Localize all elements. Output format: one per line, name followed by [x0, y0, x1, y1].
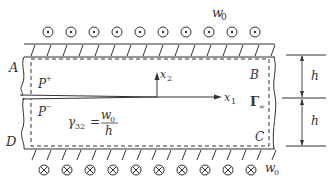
- out-of-plane-icon: [227, 27, 237, 37]
- out-of-plane-icon: [112, 27, 122, 37]
- svg-text:∞: ∞: [259, 103, 265, 111]
- out-of-plane-icon: [158, 27, 168, 37]
- lower-height-label: h: [311, 114, 319, 128]
- crack-strip-diagram: w 0: [0, 0, 333, 185]
- out-of-plane-icon: [43, 27, 53, 37]
- corner-c-label: C: [255, 130, 264, 144]
- into-plane-icon: [246, 165, 256, 175]
- svg-text:+: +: [46, 75, 52, 83]
- into-plane-icon: [85, 165, 95, 175]
- contour-label: Γ ∞: [250, 94, 265, 111]
- svg-text:0: 0: [274, 168, 279, 177]
- strip-left-edge: [21, 57, 24, 149]
- dim-arrow-down-icon: [300, 91, 304, 97]
- into-plane-icon: [223, 165, 233, 175]
- corner-b-label: B: [249, 68, 259, 82]
- x2-arrowhead-icon: [155, 72, 160, 80]
- top-displacement-label: w 0: [212, 5, 227, 22]
- svg-text:=: =: [90, 115, 100, 129]
- svg-text:0: 0: [221, 12, 227, 22]
- into-plane-icon: [200, 165, 210, 175]
- svg-text:h: h: [105, 124, 113, 138]
- svg-text:x: x: [160, 68, 167, 81]
- into-plane-icon: [177, 165, 187, 175]
- upper-height-label: h: [311, 69, 319, 83]
- corner-a-label: A: [8, 60, 18, 75]
- strip-right-edge: [273, 57, 276, 149]
- svg-text:1: 1: [231, 97, 236, 106]
- coordinate-axes: x 1 x 2: [155, 68, 237, 106]
- height-dimensions: h h: [282, 55, 326, 146]
- crack: [20, 95, 157, 99]
- bottom-boundary: [24, 149, 276, 160]
- svg-text:2: 2: [167, 74, 172, 83]
- lower-face-label: P −: [37, 103, 52, 119]
- top-boundary: [24, 44, 275, 57]
- corner-d-label: D: [5, 134, 17, 149]
- svg-text:32: 32: [75, 122, 85, 131]
- shear-strain-formula: γ 32 = w 0 h: [68, 108, 118, 138]
- out-of-plane-icon: [204, 27, 214, 37]
- x1-arrowhead-icon: [214, 95, 222, 100]
- out-of-plane-icon: [181, 27, 191, 37]
- out-of-plane-icon: [135, 27, 145, 37]
- out-of-plane-symbols-row: [43, 27, 260, 37]
- dim-arrow-up-icon: [300, 99, 304, 105]
- bottom-displacement-label: w 0: [265, 161, 279, 177]
- upper-face-label: P +: [37, 75, 52, 91]
- out-of-plane-icon: [89, 27, 99, 37]
- dim-arrow-up-icon: [300, 55, 304, 61]
- into-plane-icon: [62, 165, 72, 175]
- out-of-plane-icon: [66, 27, 76, 37]
- into-plane-icon: [108, 165, 118, 175]
- into-plane-icon: [154, 165, 164, 175]
- dim-arrow-down-icon: [300, 140, 304, 146]
- into-plane-icon: [39, 165, 49, 175]
- into-plane-icon: [131, 165, 141, 175]
- svg-text:−: −: [46, 103, 52, 111]
- out-of-plane-icon: [250, 27, 260, 37]
- into-plane-symbols-row: [39, 165, 256, 175]
- svg-text:x: x: [224, 91, 231, 104]
